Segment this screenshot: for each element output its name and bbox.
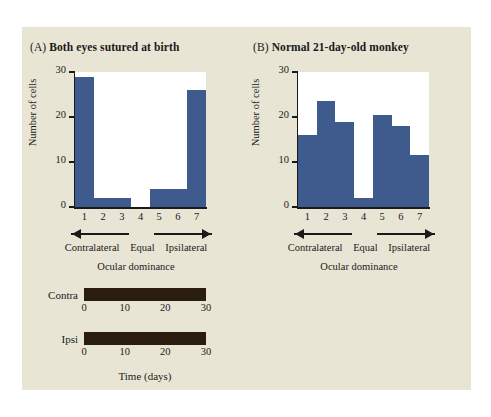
panel-a-x-tick-labels: 1234567 <box>75 211 206 222</box>
panel-b-label-contralateral: Contralateral <box>288 242 343 253</box>
panel-b-y-tick-label-10: 10 <box>279 154 290 165</box>
timeline-ipsi-tick-20: 20 <box>160 346 171 357</box>
timeline-chart: Contra 0102030 Ipsi 0102030 Time (days) <box>22 288 242 388</box>
panel-b-bar-6 <box>392 126 411 207</box>
panel-b-bar-4 <box>354 198 373 207</box>
panel-b-y-axis-title: Number of cells <box>250 67 261 159</box>
panel-b-y-tick-label-0: 0 <box>284 199 289 210</box>
panel-b-x-tick-6: 6 <box>392 211 411 222</box>
timeline-label-contra: Contra <box>22 289 78 301</box>
panel-b-x-tick-1: 1 <box>298 211 317 222</box>
timeline-bar-ipsi <box>84 332 206 345</box>
timeline-row-contra: Contra 0102030 <box>22 288 242 322</box>
panel-a-x-tick-3: 3 <box>112 211 131 222</box>
panel-b-plot-area <box>298 72 429 207</box>
panel-b-y-tick-label-30: 30 <box>279 64 290 75</box>
panel-b-dominance-arrows <box>285 228 443 240</box>
panel-b-bar-7 <box>410 155 429 207</box>
panel-b-label-ipsilateral: Ipsilateral <box>388 242 430 253</box>
panel-a-bar-1 <box>75 77 94 208</box>
panel-a-y-tick-label-30: 30 <box>56 64 67 75</box>
timeline-axis-title: Time (days) <box>60 370 230 382</box>
timeline-ticks-ipsi: 0102030 <box>84 346 206 360</box>
panel-a-bar-3 <box>112 198 131 207</box>
panel-b-x-axis-line <box>297 207 430 209</box>
panel-b-x-tick-5: 5 <box>373 211 392 222</box>
panel-a-bar-5 <box>150 189 169 207</box>
panel-a-x-tick-5: 5 <box>150 211 169 222</box>
panel-a-y-tick-label-10: 10 <box>56 154 67 165</box>
panel-a-title-text: Both eyes sutured at birth <box>49 41 179 53</box>
timeline-ipsi-tick-10: 10 <box>119 346 130 357</box>
panel-a-y-tick-label-20: 20 <box>56 109 67 120</box>
panel-b-left-arrow-icon <box>294 233 352 235</box>
panel-a-bar-2 <box>94 198 113 207</box>
panel-b-y-tick-label-20: 20 <box>279 109 290 120</box>
histogram-panel-b: Number of cells 0 10 20 30 1234567 <box>245 65 460 265</box>
panel-a-dominance-arrows <box>62 228 220 240</box>
panel-b-right-arrow-icon <box>377 233 435 235</box>
panel-b-bar-2 <box>317 101 336 207</box>
timeline-label-ipsi: Ipsi <box>22 333 78 345</box>
panel-a-x-tick-4: 4 <box>131 211 150 222</box>
panel-b-bar-5 <box>373 115 392 207</box>
panel-a-bars <box>75 72 206 207</box>
panel-b-x-tick-7: 7 <box>410 211 429 222</box>
timeline-contra-tick-10: 10 <box>119 302 130 313</box>
panel-a-x-tick-2: 2 <box>94 211 113 222</box>
panel-a-bar-6 <box>169 189 188 207</box>
timeline-track-contra <box>84 288 206 301</box>
panel-b-x-tick-3: 3 <box>335 211 354 222</box>
panel-b-bars <box>298 72 429 207</box>
timeline-contra-tick-0: 0 <box>81 302 86 313</box>
timeline-row-ipsi: Ipsi 0102030 <box>22 332 242 366</box>
panel-b-dominance-labels: Contralateral Equal Ipsilateral <box>259 242 459 253</box>
panel-b-bar-3 <box>335 122 354 208</box>
timeline-bar-contra <box>84 288 206 301</box>
timeline-track-ipsi <box>84 332 206 345</box>
panel-b-bar-1 <box>298 135 317 207</box>
panel-a-bar-7 <box>187 90 206 207</box>
histogram-panel-a: Number of cells 0 10 20 30 1234567 <box>22 65 237 265</box>
panel-a-label-equal: Equal <box>130 242 155 253</box>
panel-a-x-axis-title: Ocular dominance <box>36 261 236 272</box>
panel-b-x-axis-title: Ocular dominance <box>259 261 459 272</box>
panel-a-x-axis-line <box>74 207 207 209</box>
timeline-contra-tick-30: 30 <box>201 302 212 313</box>
panel-a-label-ipsilateral: Ipsilateral <box>165 242 207 253</box>
panel-a-tag: (A) <box>30 41 46 53</box>
panel-a-label-contralateral: Contralateral <box>65 242 120 253</box>
panel-b-label-equal: Equal <box>353 242 378 253</box>
timeline-ipsi-tick-30: 30 <box>201 346 212 357</box>
panel-b-x-tick-2: 2 <box>317 211 336 222</box>
panel-a-x-tick-1: 1 <box>75 211 94 222</box>
panel-a-x-tick-7: 7 <box>187 211 206 222</box>
panel-a-dominance-labels: Contralateral Equal Ipsilateral <box>36 242 236 253</box>
figure-root: (A) Both eyes sutured at birth (B) Norma… <box>0 0 491 417</box>
panel-a-y-tick-label-0: 0 <box>61 199 66 210</box>
timeline-contra-tick-20: 20 <box>160 302 171 313</box>
panel-a-right-arrow-icon <box>154 233 212 235</box>
panel-b-title: (B) Normal 21-day-old monkey <box>253 41 409 53</box>
panel-a-y-axis-title: Number of cells <box>27 67 38 159</box>
panel-b-x-tick-labels: 1234567 <box>298 211 429 222</box>
panel-a-left-arrow-icon <box>71 233 129 235</box>
timeline-ipsi-tick-0: 0 <box>81 346 86 357</box>
panel-b-title-text: Normal 21-day-old monkey <box>272 41 409 53</box>
panel-b-x-tick-4: 4 <box>354 211 373 222</box>
timeline-ticks-contra: 0102030 <box>84 302 206 316</box>
panel-a-x-tick-6: 6 <box>169 211 188 222</box>
panel-a-title: (A) Both eyes sutured at birth <box>30 41 179 53</box>
panel-a-plot-area <box>75 72 206 207</box>
panel-b-tag: (B) <box>253 41 269 53</box>
